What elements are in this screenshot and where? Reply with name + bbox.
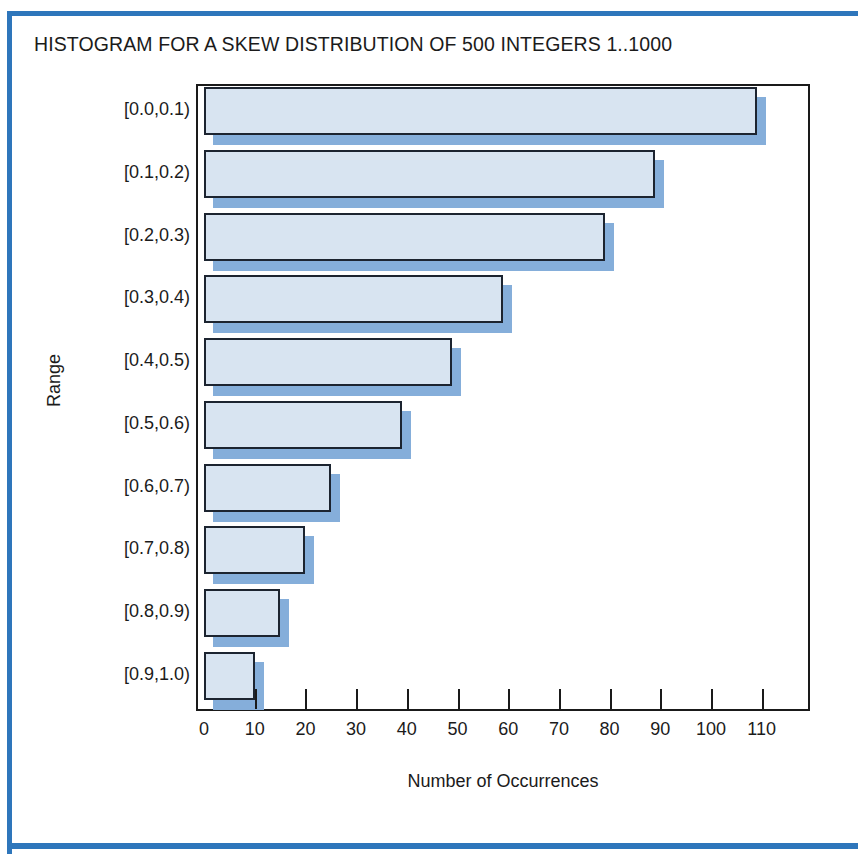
y-tick-label: [0.4,0.5) bbox=[20, 350, 190, 371]
x-tick-mark bbox=[559, 689, 561, 709]
y-tick-label: [0.7,0.8) bbox=[20, 538, 190, 559]
y-tick-label: [0.6,0.7) bbox=[20, 476, 190, 497]
y-tick-label: [0.9,1.0) bbox=[20, 664, 190, 685]
chart-title: HISTOGRAM FOR A SKEW DISTRIBUTION OF 500… bbox=[34, 33, 672, 56]
x-tick-mark bbox=[711, 689, 713, 709]
x-tick-mark bbox=[356, 689, 358, 709]
x-tick-mark bbox=[660, 689, 662, 709]
y-tick-label: [0.0,0.1) bbox=[20, 99, 190, 120]
y-tick-label: [0.5,0.6) bbox=[20, 413, 190, 434]
y-tick-label: [0.1,0.2) bbox=[20, 162, 190, 183]
y-axis-tick-labels: [0.0,0.1)[0.1,0.2)[0.2,0.3)[0.3,0.4)[0.4… bbox=[12, 84, 190, 711]
y-tick-label: [0.3,0.4) bbox=[20, 287, 190, 308]
chart-page: HISTOGRAM FOR A SKEW DISTRIBUTION OF 500… bbox=[0, 0, 858, 854]
page-border-top bbox=[7, 11, 858, 16]
x-tick-mark bbox=[610, 689, 612, 709]
x-tick-mark bbox=[305, 689, 307, 709]
page-border-bottom bbox=[7, 843, 858, 849]
y-tick-label: [0.2,0.3) bbox=[20, 225, 190, 246]
plot-area-frame bbox=[196, 84, 810, 711]
x-tick-mark bbox=[255, 689, 257, 709]
x-tick-label: 110 bbox=[732, 719, 792, 740]
x-tick-mark bbox=[508, 689, 510, 709]
x-axis-title: Number of Occurrences bbox=[196, 771, 810, 792]
x-tick-mark bbox=[762, 689, 764, 709]
y-tick-label: [0.8,0.9) bbox=[20, 601, 190, 622]
x-tick-mark bbox=[407, 689, 409, 709]
x-tick-mark bbox=[458, 689, 460, 709]
